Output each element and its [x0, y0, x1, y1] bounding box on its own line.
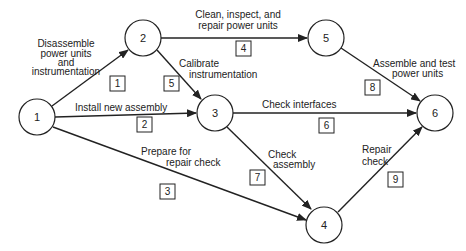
svg-text:1: 1	[115, 78, 121, 89]
svg-text:instrumentation: instrumentation	[189, 69, 257, 80]
activity-number-5: 5	[164, 76, 179, 91]
activity-number-4: 4	[236, 41, 251, 56]
svg-text:repair power units: repair power units	[198, 20, 277, 31]
activity-label-5: Calibrate instrumentation	[179, 58, 257, 80]
node-5: 5	[308, 20, 344, 56]
svg-text:2: 2	[142, 119, 148, 130]
network-diagram: 1 2 3 4 5 6 Disassemble power units and …	[0, 0, 466, 251]
svg-text:Prepare for: Prepare for	[141, 146, 192, 157]
svg-text:4: 4	[321, 219, 327, 231]
svg-text:6: 6	[432, 107, 438, 119]
svg-text:5: 5	[323, 32, 329, 44]
svg-text:Repair: Repair	[362, 144, 392, 155]
svg-text:3: 3	[165, 186, 171, 197]
activity-number-9: 9	[388, 172, 403, 187]
activity-label-7: Check assembly	[268, 149, 315, 170]
edge-4-6	[338, 127, 422, 212]
svg-text:repair check: repair check	[166, 157, 221, 168]
activity-label-3: Prepare for repair check	[141, 146, 221, 168]
svg-text:power units: power units	[392, 68, 443, 79]
svg-text:9: 9	[393, 174, 399, 185]
svg-text:Calibrate: Calibrate	[179, 58, 219, 69]
activity-label-2: Install new assembly	[75, 102, 167, 113]
activity-number-2: 2	[137, 117, 152, 132]
svg-text:Install new assembly: Install new assembly	[75, 102, 167, 113]
activity-number-1: 1	[110, 76, 125, 91]
svg-text:2: 2	[140, 32, 146, 44]
node-2: 2	[125, 20, 161, 56]
svg-text:8: 8	[370, 82, 376, 93]
svg-text:5: 5	[169, 78, 175, 89]
svg-text:assembly: assembly	[273, 159, 315, 170]
node-1: 1	[19, 99, 55, 135]
activity-number-8: 8	[365, 80, 380, 95]
node-6: 6	[417, 95, 453, 131]
svg-text:Check interfaces: Check interfaces	[262, 99, 336, 110]
edge-1-3	[55, 113, 196, 117]
svg-text:6: 6	[324, 120, 330, 131]
svg-text:4: 4	[241, 43, 247, 54]
activity-number-7: 7	[250, 170, 265, 185]
node-3: 3	[197, 95, 233, 131]
svg-text:1: 1	[34, 111, 40, 123]
activity-label-6: Check interfaces	[262, 99, 336, 110]
svg-text:instrumentation: instrumentation	[32, 66, 100, 77]
svg-text:Clean, inspect, and: Clean, inspect, and	[195, 9, 281, 20]
activity-number-6: 6	[319, 118, 334, 133]
svg-text:3: 3	[212, 107, 218, 119]
activity-label-9: Repair check	[362, 144, 392, 167]
node-4: 4	[306, 207, 342, 243]
activity-label-4: Clean, inspect, and repair power units	[195, 9, 281, 31]
svg-text:7: 7	[255, 172, 261, 183]
svg-text:check: check	[362, 156, 389, 167]
edge-1-4	[53, 127, 306, 220]
activity-label-8: Assemble and test power units	[373, 58, 455, 79]
activity-number-3: 3	[160, 184, 175, 199]
activity-label-1: Disassemble power units and instrumentat…	[32, 38, 100, 77]
